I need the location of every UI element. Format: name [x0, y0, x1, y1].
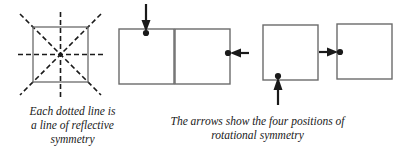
square-outline — [175, 29, 230, 84]
vertex-dot — [143, 30, 149, 36]
rotational-symmetry-caption: The arrows show the four positions of ro… — [120, 114, 395, 142]
rotational-symmetry-svg — [112, 0, 399, 112]
arrow-left-head — [230, 49, 241, 58]
rotational-caption-line-2: rotational symmetry — [120, 128, 395, 142]
vertex-dot — [275, 73, 281, 79]
vertex-dot — [225, 50, 231, 56]
rotational-symmetry-figure — [112, 0, 399, 112]
square-position-1 — [119, 4, 174, 84]
symmetry-illustration-page: Each dotted line is a line of reflective… — [0, 0, 399, 160]
square-position-2 — [175, 29, 249, 84]
square-outline — [263, 25, 318, 80]
square-position-3 — [263, 25, 318, 105]
square-position-4 — [319, 24, 392, 79]
centre-point-dot — [58, 52, 62, 56]
square-outline — [119, 29, 174, 84]
reflective-symmetry-figure — [18, 12, 123, 100]
vertex-dot — [337, 49, 343, 55]
rotational-caption-line-1: The arrows show the four positions of — [120, 114, 395, 128]
square-outline — [337, 24, 392, 79]
reflective-symmetry-svg — [18, 12, 123, 100]
